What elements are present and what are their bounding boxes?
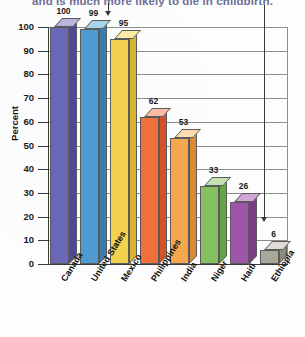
- y-axis-label: Percent: [9, 94, 20, 154]
- bar-value-label: 95: [104, 18, 144, 28]
- bar-side-face: [99, 21, 107, 264]
- y-tick-mark: [38, 240, 48, 241]
- bar[interactable]: [260, 250, 279, 264]
- y-tick-label: 0: [4, 258, 34, 269]
- bar-value-label: 26: [224, 181, 264, 191]
- bar-value-label: 6: [254, 229, 294, 239]
- bar-value-label: 33: [194, 165, 234, 175]
- bar-value-label: 62: [134, 96, 174, 106]
- bar-side-face: [129, 31, 137, 264]
- bar-value-label: 53: [164, 117, 204, 127]
- y-tick-mark: [38, 264, 48, 265]
- bar-side-face: [69, 19, 77, 264]
- y-tick-mark: [38, 98, 48, 99]
- y-tick-label: 80: [4, 68, 34, 79]
- y-tick-label: 90: [4, 45, 34, 56]
- y-tick-label: 10: [4, 234, 34, 245]
- bar-front-face: [200, 186, 219, 264]
- bar[interactable]: [200, 186, 219, 264]
- y-tick-label: 40: [4, 163, 34, 174]
- arrow-shaft: [264, 5, 265, 217]
- bar[interactable]: [50, 27, 69, 264]
- y-tick-mark: [38, 169, 48, 170]
- y-tick-mark: [38, 74, 48, 75]
- y-tick-mark: [38, 146, 48, 147]
- bar-front-face: [50, 27, 69, 264]
- bar-side-face: [189, 130, 197, 264]
- bar-front-face: [230, 202, 249, 264]
- bar-top-face: [234, 193, 261, 202]
- bar[interactable]: [140, 117, 159, 264]
- bar-top-face: [144, 108, 171, 117]
- bar-top-face: [174, 129, 201, 138]
- bar[interactable]: [80, 29, 99, 264]
- bar-top-face: [114, 30, 141, 39]
- y-tick-mark: [38, 193, 48, 194]
- bar[interactable]: [230, 202, 249, 264]
- bar-front-face: [260, 250, 279, 264]
- bar-front-face: [140, 117, 159, 264]
- bar-front-face: [80, 29, 99, 264]
- bar-side-face: [159, 109, 167, 264]
- y-tick-mark: [38, 122, 48, 123]
- y-tick-mark: [38, 27, 48, 28]
- y-tick-mark: [38, 51, 48, 52]
- y-tick-label: 20: [4, 211, 34, 222]
- plot-area: [48, 27, 288, 264]
- y-tick-label: 100: [4, 21, 34, 32]
- y-tick-label: 30: [4, 187, 34, 198]
- arrow-head: [261, 217, 267, 222]
- y-tick-mark: [38, 217, 48, 218]
